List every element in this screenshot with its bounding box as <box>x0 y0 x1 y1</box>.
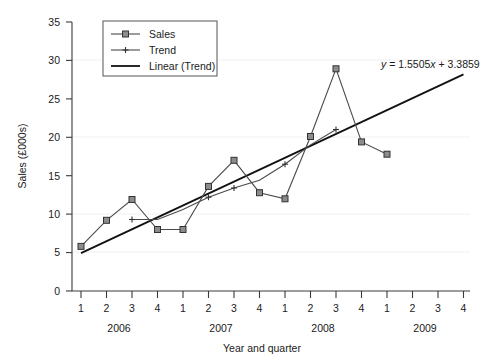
y-tick-label-5: 5 <box>54 246 60 258</box>
x-tick-label-q2: 2 <box>104 302 110 314</box>
legend-label-linear-trend: Linear (Trend) <box>149 60 215 72</box>
series-sales-markers <box>78 66 390 250</box>
gridlines <box>72 60 470 252</box>
x-tick-label-q15: 3 <box>435 302 441 314</box>
data-point-marker <box>104 217 110 223</box>
chart-legend[interactable]: Sales Trend Linear (Trend) <box>103 21 217 76</box>
x-tick-label-q4: 4 <box>155 302 161 314</box>
y-tick-label-10: 10 <box>48 208 60 220</box>
y-axis-title: Sales (£000s) <box>16 124 28 189</box>
data-point-marker <box>155 227 161 233</box>
x-tick-label-q11: 3 <box>333 302 339 314</box>
x-tick-label-q10: 2 <box>308 302 314 314</box>
x-axis-year-labels: 2006 2007 2008 2009 <box>107 322 437 334</box>
x-tick-label-q14: 2 <box>410 302 416 314</box>
y-axis-ticks: 0 5 10 15 20 25 30 35 <box>48 16 72 297</box>
data-point-marker <box>308 134 314 140</box>
x-tick-label-q5: 1 <box>180 302 186 314</box>
y-tick-label-15: 15 <box>48 170 60 182</box>
year-label-2007: 2007 <box>209 322 233 334</box>
legend-label-trend: Trend <box>149 44 176 56</box>
y-tick-label-30: 30 <box>48 54 60 66</box>
equation-tail: + 3.3859 <box>436 58 480 70</box>
x-tick-label-q1: 1 <box>78 302 84 314</box>
y-tick-label-0: 0 <box>54 285 60 297</box>
data-point-marker <box>78 243 84 249</box>
x-tick-label-q7: 3 <box>231 302 237 314</box>
year-label-2009: 2009 <box>413 322 437 334</box>
year-label-2008: 2008 <box>311 322 335 334</box>
x-tick-label-q3: 3 <box>129 302 135 314</box>
equation-rhs: = 1.5505 <box>386 58 430 70</box>
data-point-marker <box>231 157 237 163</box>
data-point-marker <box>257 190 263 196</box>
regression-equation-annotation: y = 1.5505x + 3.3859 <box>380 58 480 70</box>
x-tick-label-q12: 4 <box>359 302 365 314</box>
series-trend-line <box>132 130 336 220</box>
x-tick-label-q16: 4 <box>461 302 467 314</box>
series-linear-trend-line <box>81 74 464 253</box>
chart-container: 0 5 10 15 20 25 30 35 Sales (£000s) <box>0 0 496 362</box>
y-tick-label-35: 35 <box>48 16 60 28</box>
x-tick-label-q9: 1 <box>282 302 288 314</box>
data-point-marker <box>333 66 339 72</box>
year-label-2006: 2006 <box>107 322 131 334</box>
data-point-marker <box>282 196 288 202</box>
series-trend-markers <box>129 127 339 223</box>
data-point-marker <box>359 139 365 145</box>
legend-sales-square-marker <box>123 31 129 37</box>
x-tick-label-q6: 2 <box>206 302 212 314</box>
x-axis-ticks <box>81 291 464 298</box>
y-tick-label-25: 25 <box>48 93 60 105</box>
data-point-marker <box>206 183 212 189</box>
x-tick-label-q13: 1 <box>384 302 390 314</box>
x-tick-label-q8: 4 <box>257 302 263 314</box>
data-point-marker <box>129 197 135 203</box>
x-axis-tick-labels: 1 2 3 4 1 2 3 4 1 2 3 4 1 2 3 4 <box>78 302 467 314</box>
data-point-marker <box>384 151 390 157</box>
y-tick-label-20: 20 <box>48 131 60 143</box>
sales-trend-line-chart: 0 5 10 15 20 25 30 35 Sales (£000s) <box>0 0 496 362</box>
legend-label-sales: Sales <box>149 28 175 40</box>
x-axis-title: Year and quarter <box>223 342 301 354</box>
data-point-marker <box>180 227 186 233</box>
